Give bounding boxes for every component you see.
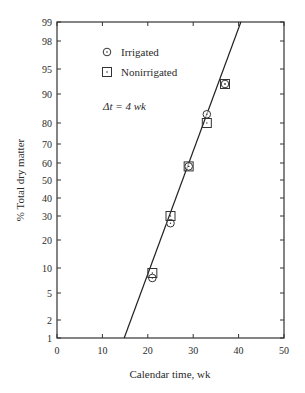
circle-marker-dot-icon: [106, 51, 108, 53]
y-tick-label: 30: [42, 211, 52, 222]
interval-annotation: Δt = 4 wk: [102, 100, 147, 112]
y-tick-label: 99: [42, 17, 52, 28]
point-center: [170, 215, 171, 216]
y-tick-label: 98: [42, 36, 52, 47]
point-center: [152, 272, 153, 273]
x-tick-label: 0: [55, 345, 60, 356]
y-tick-label: 50: [42, 175, 52, 186]
y-tick-label: 2: [47, 315, 52, 326]
probability-plot: 12510203040506070809095989901020304050 I…: [0, 0, 305, 393]
y-tick-label: 20: [42, 235, 52, 246]
point-center: [188, 166, 189, 167]
x-tick-label: 10: [97, 345, 107, 356]
point-center: [224, 83, 225, 84]
y-tick-label: 10: [42, 263, 52, 274]
chart-svg: 12510203040506070809095989901020304050 I…: [0, 0, 305, 393]
legend: Irrigated Nonirrigated: [103, 46, 178, 78]
x-tick-label: 20: [143, 345, 153, 356]
y-tick-label: 60: [42, 158, 52, 169]
y-tick-label: 1: [47, 333, 52, 344]
y-tick-label: 90: [42, 89, 52, 100]
x-tick-label: 50: [279, 345, 289, 356]
y-tick-label: 5: [47, 288, 52, 299]
y-tick-label: 40: [42, 193, 52, 204]
legend-irrigated-label: Irrigated: [121, 46, 159, 58]
x-axis-title: Calendar time, wk: [130, 368, 211, 380]
x-tick-label: 30: [188, 345, 198, 356]
y-tick-label: 70: [42, 139, 52, 150]
point-center: [206, 122, 207, 123]
point-center: [206, 114, 207, 115]
y-tick-label: 80: [42, 118, 52, 129]
y-axis-title: % Total dry matter: [14, 138, 26, 221]
data-points: [148, 80, 230, 282]
square-marker-dot-icon: [106, 71, 108, 73]
x-tick-label: 40: [234, 345, 244, 356]
point-center: [170, 223, 171, 224]
y-tick-label: 95: [42, 64, 52, 75]
legend-nonirrigated-label: Nonirrigated: [121, 66, 178, 78]
